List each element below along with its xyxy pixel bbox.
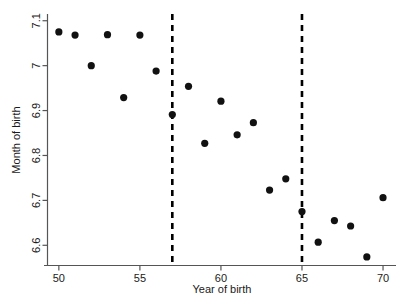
data-point — [136, 32, 143, 39]
data-point — [88, 62, 95, 69]
x-tick-label: 70 — [377, 272, 389, 284]
data-point — [298, 208, 305, 215]
y-axis-title: Month of birth — [10, 106, 22, 173]
data-point — [379, 194, 386, 201]
data-point — [201, 140, 208, 147]
x-tick-label: 50 — [53, 272, 65, 284]
y-tick-label: 6.7 — [30, 193, 42, 208]
y-tick-label: 7 — [30, 63, 42, 69]
y-axis-ticks: 6.66.76.86.977.1 — [30, 13, 48, 253]
scatter-plot-figure: 6.66.76.86.977.1 5055606570 Month of bir… — [0, 0, 406, 298]
data-point — [217, 98, 224, 105]
data-point — [153, 67, 160, 74]
data-point — [250, 119, 257, 126]
axes — [44, 14, 396, 266]
x-axis-title: Year of birth — [193, 283, 252, 295]
data-point — [120, 94, 127, 101]
x-axis-ticks: 5055606570 — [53, 266, 389, 285]
y-tick-label: 7.1 — [30, 13, 42, 28]
x-tick-label: 65 — [296, 272, 308, 284]
reference-lines — [172, 14, 302, 266]
y-tick-label: 6.9 — [30, 103, 42, 118]
data-points — [55, 28, 386, 260]
data-point — [185, 83, 192, 90]
data-point — [104, 31, 111, 38]
data-point — [266, 186, 273, 193]
data-point — [71, 32, 78, 39]
plot-canvas: 6.66.76.86.977.1 5055606570 Month of bir… — [0, 0, 406, 298]
data-point — [363, 253, 370, 260]
y-tick-label: 6.8 — [30, 148, 42, 163]
data-point — [331, 217, 338, 224]
data-point — [234, 131, 241, 138]
data-point — [169, 111, 176, 118]
data-point — [347, 222, 354, 229]
data-point — [55, 28, 62, 35]
data-point — [282, 175, 289, 182]
data-point — [315, 239, 322, 246]
y-tick-label: 6.6 — [30, 238, 42, 253]
x-tick-label: 55 — [134, 272, 146, 284]
